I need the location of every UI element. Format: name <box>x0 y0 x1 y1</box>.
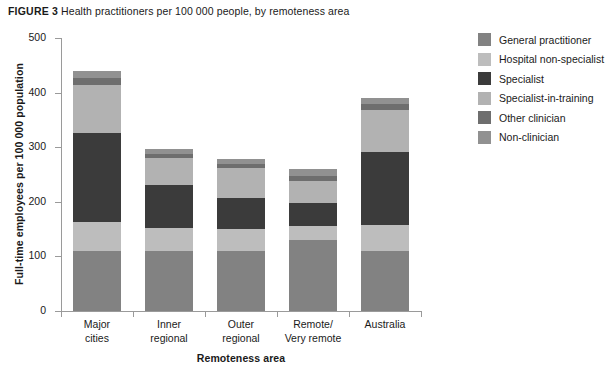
legend-item-hospital-non-specialist[interactable]: Hospital non-specialist <box>478 50 610 70</box>
y-tick-500 <box>55 38 62 39</box>
x-tick-4 <box>349 311 350 317</box>
y-axis-line <box>61 38 62 312</box>
y-tick-300 <box>55 147 62 148</box>
bar-segment-other-clinician <box>289 176 337 181</box>
bar-segment-specialist <box>217 198 265 229</box>
bar-segment-specialist <box>145 185 193 228</box>
bar-segment-specialist-in-training <box>145 158 193 185</box>
x-category-label-4: Australia <box>340 318 430 332</box>
bar-segment-hospital-non-specialist <box>73 222 121 251</box>
legend-swatch-icon <box>478 33 491 46</box>
bar-segment-hospital-non-specialist <box>361 225 409 251</box>
legend-item-non-clinician[interactable]: Non-clinician <box>478 128 610 148</box>
bar-segment-general-practitioner <box>217 251 265 311</box>
bar-segment-non-clinician <box>73 71 121 78</box>
bar-segment-other-clinician <box>217 164 265 168</box>
legend-item-general-practitioner[interactable]: General practitioner <box>478 30 610 50</box>
legend-swatch-icon <box>478 72 491 85</box>
x-category-line: Australia <box>340 318 430 332</box>
bar-remote-very-remote <box>289 0 337 311</box>
bar-segment-general-practitioner <box>361 251 409 311</box>
chart-legend: General practitionerHospital non-special… <box>478 30 610 147</box>
bar-outer-regional <box>217 0 265 311</box>
legend-label: Hospital non-specialist <box>499 53 604 65</box>
bar-segment-non-clinician <box>289 169 337 176</box>
bar-segment-specialist <box>289 203 337 226</box>
x-tick-2 <box>205 311 206 317</box>
bar-segment-specialist <box>361 152 409 225</box>
legend-label: General practitioner <box>499 34 591 46</box>
x-tick-0 <box>61 311 62 317</box>
x-axis-line <box>61 311 421 312</box>
bar-segment-specialist-in-training <box>289 181 337 203</box>
bar-segment-other-clinician <box>145 154 193 158</box>
bar-segment-general-practitioner <box>145 251 193 311</box>
legend-item-other-clinician[interactable]: Other clinician <box>478 108 610 128</box>
x-category-line: Very remote <box>268 332 358 346</box>
y-tick-label-500: 500 <box>0 31 46 43</box>
bar-segment-non-clinician <box>361 98 409 104</box>
legend-swatch-icon <box>478 131 491 144</box>
bar-segment-specialist <box>73 133 121 222</box>
bar-segment-non-clinician <box>217 159 265 163</box>
bar-inner-regional <box>145 0 193 311</box>
x-tick-1 <box>133 311 134 317</box>
legend-label: Other clinician <box>499 112 566 124</box>
y-tick-label-0: 0 <box>0 304 46 316</box>
bar-segment-other-clinician <box>361 104 409 110</box>
y-tick-200 <box>55 202 62 203</box>
legend-swatch-icon <box>478 111 491 124</box>
bar-segment-other-clinician <box>73 78 121 85</box>
y-tick-400 <box>55 93 62 94</box>
x-tick-5 <box>421 311 422 317</box>
y-axis-label: Full-time employees per 100 000 populati… <box>13 59 25 289</box>
bar-segment-non-clinician <box>145 149 193 153</box>
legend-label: Specialist <box>499 73 544 85</box>
x-tick-3 <box>277 311 278 317</box>
legend-item-specialist[interactable]: Specialist <box>478 69 610 89</box>
bar-segment-specialist-in-training <box>73 85 121 133</box>
bar-australia <box>361 0 409 311</box>
legend-label: Non-clinician <box>499 131 559 143</box>
bar-segment-hospital-non-specialist <box>145 228 193 251</box>
legend-label: Specialist-in-training <box>499 92 594 104</box>
legend-swatch-icon <box>478 53 491 66</box>
y-tick-100 <box>55 256 62 257</box>
bar-major-cities <box>73 0 121 311</box>
bar-segment-hospital-non-specialist <box>289 226 337 240</box>
legend-item-specialist-in-training[interactable]: Specialist-in-training <box>478 89 610 109</box>
legend-swatch-icon <box>478 92 491 105</box>
bar-segment-general-practitioner <box>289 240 337 311</box>
x-axis-label: Remoteness area <box>61 352 421 364</box>
bar-segment-specialist-in-training <box>217 168 265 198</box>
bar-segment-general-practitioner <box>73 251 121 311</box>
bar-segment-specialist-in-training <box>361 110 409 153</box>
bar-segment-hospital-non-specialist <box>217 229 265 251</box>
